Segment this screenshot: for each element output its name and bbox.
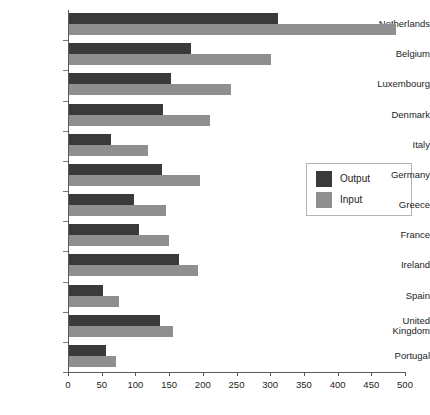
bar-input-greece [69, 205, 166, 216]
bar-output-ireland [69, 254, 179, 265]
bar-output-france [69, 224, 139, 235]
x-axis-tick-label: 350 [287, 379, 321, 390]
y-axis-tick [63, 221, 68, 222]
x-axis-tick [169, 372, 170, 376]
category-label-luxembourg: Luxembourg [366, 79, 430, 90]
x-axis-tick-label: 450 [354, 379, 388, 390]
x-axis-tick-label: 300 [253, 379, 287, 390]
bar-output-denmark [69, 104, 163, 115]
bar-output-spain [69, 285, 103, 296]
y-axis-tick [63, 191, 68, 192]
x-axis-tick [102, 372, 103, 376]
bar-output-greece [69, 194, 134, 205]
x-axis-tick-label: 0 [51, 379, 85, 390]
y-axis-tick [63, 161, 68, 162]
x-axis-tick [371, 372, 372, 376]
category-label-spain: Spain [366, 291, 430, 302]
x-axis-tick [237, 372, 238, 376]
x-axis-tick-label: 400 [321, 379, 355, 390]
category-label-greece: Greece [366, 200, 430, 211]
x-axis-tick [270, 372, 271, 376]
category-label-italy: Italy [366, 140, 430, 151]
bar-input-germany [69, 175, 200, 186]
bar-output-germany [69, 164, 162, 175]
x-axis-tick [338, 372, 339, 376]
x-axis-tick-label: 100 [118, 379, 152, 390]
bar-output-belgium [69, 43, 191, 54]
y-axis-tick [63, 131, 68, 132]
y-axis-tick [63, 342, 68, 343]
x-axis-tick [68, 372, 69, 376]
bar-input-netherlands [69, 24, 396, 35]
y-axis-tick [63, 251, 68, 252]
bar-output-united-kingdom [69, 315, 160, 326]
bar-input-belgium [69, 54, 271, 65]
x-axis-tick [203, 372, 204, 376]
bar-input-luxembourg [69, 84, 231, 95]
x-axis-tick-label: 250 [220, 379, 254, 390]
bar-output-luxembourg [69, 73, 171, 84]
category-label-united-kingdom: UnitedKingdom [366, 316, 430, 336]
bar-input-spain [69, 296, 119, 307]
legend-label-input: Input [340, 194, 362, 205]
bar-chart: OutputInput 0501001502002503003504004505… [0, 0, 430, 415]
category-label-france: France [366, 230, 430, 241]
legend-swatch-input [316, 192, 332, 208]
y-axis-tick [63, 40, 68, 41]
bar-input-ireland [69, 265, 198, 276]
bar-input-france [69, 235, 169, 246]
y-axis-tick [63, 312, 68, 313]
bar-output-netherlands [69, 13, 278, 24]
y-axis-tick [63, 101, 68, 102]
x-axis-tick [135, 372, 136, 376]
category-label-germany: Germany [366, 170, 430, 181]
bar-input-denmark [69, 115, 210, 126]
x-axis-tick-label: 50 [85, 379, 119, 390]
bar-output-portugal [69, 345, 106, 356]
category-label-denmark: Denmark [366, 110, 430, 121]
category-label-ireland: Ireland [366, 260, 430, 271]
x-axis-tick [304, 372, 305, 376]
category-label-portugal: Portugal [366, 351, 430, 362]
x-axis-tick [405, 372, 406, 376]
y-axis-tick [63, 372, 68, 373]
category-label-line: Kingdom [366, 326, 430, 336]
bar-input-portugal [69, 356, 116, 367]
bar-input-united-kingdom [69, 326, 173, 337]
y-axis-tick [63, 282, 68, 283]
x-axis-tick-label: 200 [186, 379, 220, 390]
bar-input-italy [69, 145, 148, 156]
x-axis-tick-label: 150 [152, 379, 186, 390]
legend-swatch-output [316, 171, 332, 187]
x-axis-tick-label: 500 [388, 379, 422, 390]
y-axis-tick [63, 70, 68, 71]
category-label-belgium: Belgium [366, 49, 430, 60]
bar-output-italy [69, 134, 111, 145]
